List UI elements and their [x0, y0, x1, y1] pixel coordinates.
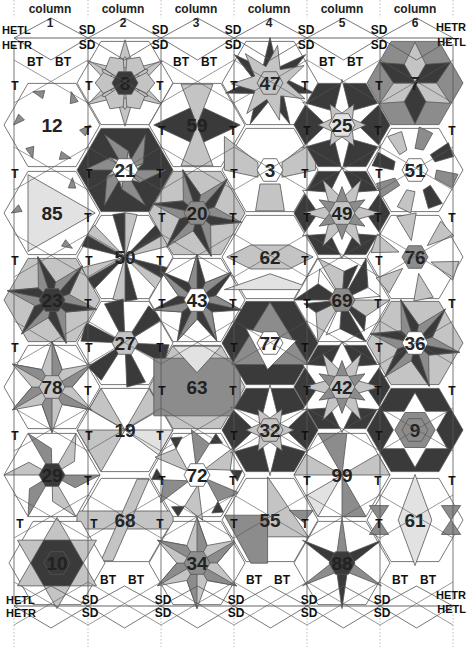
column-header-word: column — [248, 2, 291, 16]
t-label: T — [375, 254, 383, 268]
t-label: T — [375, 341, 383, 355]
column-header-word: column — [29, 2, 72, 16]
t-label: T — [301, 341, 309, 355]
t-label: T — [375, 79, 383, 93]
t-label: T — [229, 384, 237, 398]
sd-label: SD — [152, 38, 169, 52]
tile-number: 12 — [41, 115, 62, 136]
t-label: T — [374, 384, 382, 398]
t-label: T — [374, 124, 382, 138]
tile-number: 50 — [114, 247, 135, 268]
bt-label: BT — [27, 55, 44, 69]
sd-label: SD — [374, 606, 391, 620]
bt-label: BT — [392, 573, 409, 587]
tile-number: 77 — [259, 333, 280, 354]
column-header-number: 1 — [47, 16, 54, 30]
t-label: T — [448, 297, 456, 311]
sd-label: SD — [228, 606, 245, 620]
t-label: T — [156, 254, 164, 268]
tile-number: 47 — [259, 73, 280, 94]
t-label: T — [301, 79, 309, 93]
column-header-number: 2 — [120, 16, 127, 30]
t-label: T — [158, 297, 166, 311]
t-label: T — [230, 254, 238, 268]
tile-number: 20 — [186, 203, 207, 224]
edge-label-hetr: HETR — [6, 607, 36, 619]
column-header-word: column — [102, 2, 145, 16]
t-label: T — [303, 211, 311, 225]
t-label: T — [84, 211, 92, 225]
t-label: T — [158, 384, 166, 398]
t-label: T — [85, 167, 93, 181]
t-label: T — [11, 429, 19, 443]
edge-label-hetl: HETL — [6, 594, 35, 606]
t-label: T — [448, 384, 456, 398]
tile-number: 27 — [114, 333, 135, 354]
t-label: T — [11, 254, 19, 268]
tile-number: 49 — [331, 203, 352, 224]
sd-label: SD — [298, 38, 315, 52]
sd-label: SD — [301, 606, 318, 620]
tile-number: 69 — [331, 290, 352, 311]
sd-label: SD — [155, 606, 172, 620]
t-label: T — [303, 297, 311, 311]
edge-label-hetl: HETL — [2, 24, 31, 36]
tile-number: 43 — [186, 290, 207, 311]
t-label: T — [11, 167, 19, 181]
bt-label: BT — [201, 55, 218, 69]
column-header-word: column — [394, 2, 437, 16]
t-label: T — [16, 517, 24, 531]
t-label: T — [85, 254, 93, 268]
t-label: T — [303, 124, 311, 138]
t-label: T — [158, 474, 166, 488]
t-label: T — [230, 167, 238, 181]
tile-number: 72 — [186, 465, 207, 486]
sd-label: SD — [225, 23, 242, 37]
t-label: T — [156, 79, 164, 93]
sd-label: SD — [225, 38, 242, 52]
sd-label: SD — [79, 23, 96, 37]
edge-label-hetr: HETR — [2, 39, 32, 51]
t-label: T — [230, 429, 238, 443]
t-label: T — [375, 517, 383, 531]
column-header-number: 6 — [412, 16, 419, 30]
tile-number: 10 — [46, 553, 67, 574]
t-label: T — [301, 517, 309, 531]
t-label: T — [303, 384, 311, 398]
tile-number: 29 — [41, 465, 62, 486]
sd-label: SD — [82, 606, 99, 620]
t-label: T — [229, 211, 237, 225]
tile-number: 59 — [186, 115, 207, 136]
t-label: T — [375, 167, 383, 181]
tile-number: 34 — [186, 553, 208, 574]
sd-label: SD — [371, 23, 388, 37]
t-label: T — [374, 297, 382, 311]
tile-number: 32 — [259, 420, 280, 441]
t-label: T — [90, 517, 98, 531]
bt-label: BT — [347, 55, 364, 69]
tile-number: 88 — [331, 553, 352, 574]
column-header-word: column — [321, 2, 364, 16]
tile-number: 21 — [114, 160, 136, 181]
t-label: T — [84, 384, 92, 398]
t-label: T — [85, 79, 93, 93]
t-label: T — [229, 474, 237, 488]
t-label: T — [229, 297, 237, 311]
t-label: T — [156, 167, 164, 181]
bt-label: BT — [100, 573, 117, 587]
t-label: T — [448, 211, 456, 225]
sd-label: SD — [374, 593, 391, 607]
t-label: T — [84, 474, 92, 488]
t-label: T — [156, 517, 164, 531]
bt-label: BT — [246, 573, 263, 587]
column-header-number: 4 — [266, 16, 273, 30]
sd-label: SD — [228, 593, 245, 607]
sd-label: SD — [298, 23, 315, 37]
t-label: T — [158, 124, 166, 138]
t-label: T — [448, 124, 456, 138]
t-label: T — [301, 167, 309, 181]
t-label: T — [301, 429, 309, 443]
edge-label-hetl: HETL — [437, 603, 466, 615]
sd-label: SD — [152, 23, 169, 37]
tile-number: 19 — [114, 420, 135, 441]
